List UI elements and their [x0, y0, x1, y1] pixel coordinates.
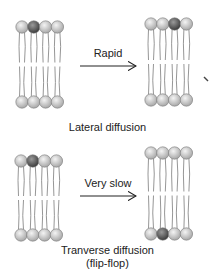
- lipid-tail: [36, 32, 37, 62]
- lipid-tail: [47, 67, 48, 97]
- lipid-tail: [25, 32, 26, 62]
- lipid-tail: [165, 64, 166, 95]
- lipid-tail: [153, 64, 154, 95]
- lipid-tail: [172, 64, 173, 95]
- transverse-diffusion-caption: Tranverse diffusion: [0, 244, 215, 257]
- lipid-tail: [177, 158, 178, 191]
- lipid-tail: [42, 166, 43, 196]
- lipid-head: [180, 147, 192, 159]
- lipid-head: [157, 18, 169, 30]
- lipid-tail: [58, 200, 59, 230]
- lipid-tail: [36, 67, 37, 97]
- lipid-head: [16, 96, 28, 108]
- lipid-tail: [30, 166, 31, 196]
- lipid-head: [145, 147, 157, 159]
- lipid-tail: [165, 29, 166, 60]
- marked-lipid-head: [27, 155, 39, 167]
- membrane-diffusion-diagram: [0, 0, 215, 273]
- lipid-tail: [165, 196, 166, 229]
- marked-lipid-head: [28, 21, 40, 33]
- lipid-tail: [60, 32, 61, 62]
- lipid-tail: [148, 158, 149, 191]
- lipid-tail: [43, 67, 44, 97]
- lipid-head: [50, 155, 62, 167]
- lipid-tail: [172, 196, 173, 229]
- lipid-head: [168, 94, 180, 106]
- lipid-tail: [165, 158, 166, 191]
- lipid-tail: [149, 64, 150, 95]
- lipid-tail: [35, 166, 36, 196]
- lipid-tail: [184, 196, 185, 229]
- lipid-head: [51, 21, 63, 33]
- lipid-head: [39, 96, 51, 108]
- lipid-tail: [149, 196, 150, 229]
- lipid-tail: [54, 32, 55, 62]
- lipid-head: [50, 229, 62, 241]
- lipid-tail: [183, 29, 184, 60]
- very-slow-label: Very slow: [78, 177, 138, 189]
- lipid-tail: [31, 32, 32, 62]
- lateral-diffusion-caption: Lateral diffusion: [0, 121, 215, 134]
- lipid-head: [180, 94, 192, 106]
- lipid-tail: [160, 29, 161, 60]
- lipid-head: [51, 96, 63, 108]
- transverse-bilayer-after: [145, 147, 193, 240]
- lipid-tail: [189, 158, 190, 191]
- lipid-tail: [30, 200, 31, 230]
- lipid-head: [180, 228, 192, 240]
- lipid-head: [15, 155, 27, 167]
- lipid-tail: [172, 29, 173, 60]
- lipid-head: [15, 229, 27, 241]
- lipid-head: [157, 147, 169, 159]
- lipid-tail: [31, 67, 32, 97]
- lipid-tail: [148, 29, 149, 60]
- lipid-head: [27, 229, 39, 241]
- lipid-tail: [48, 32, 49, 62]
- lateral-bilayer-after: [145, 18, 193, 106]
- lipid-tail: [19, 32, 20, 62]
- flip-flop-caption: (flip-flop): [0, 257, 215, 270]
- lipid-tail: [46, 200, 47, 230]
- lipid-tail: [160, 64, 161, 95]
- lipid-tail: [176, 64, 177, 95]
- marked-lipid-head: [168, 18, 180, 30]
- lipid-tail: [55, 67, 56, 97]
- lipid-tail: [35, 200, 36, 230]
- lipid-tail: [42, 200, 43, 230]
- stray-mark: [204, 77, 208, 81]
- lipid-head: [168, 147, 180, 159]
- lipid-tail: [43, 32, 44, 62]
- lipid-head: [16, 21, 28, 33]
- lipid-tail: [59, 67, 60, 97]
- lipid-tail: [154, 158, 155, 191]
- rapid-label: Rapid: [78, 47, 138, 59]
- lipid-tail: [19, 200, 20, 230]
- lipid-tail: [172, 158, 173, 191]
- lipid-tail: [188, 196, 189, 229]
- transverse-bilayer-before: [15, 155, 63, 241]
- lipid-tail: [54, 200, 55, 230]
- lipid-tail: [188, 64, 189, 95]
- lateral-bilayer-before: [16, 21, 64, 108]
- lipid-head: [28, 96, 40, 108]
- lipid-head: [38, 155, 50, 167]
- lipid-tail: [24, 67, 25, 97]
- lipid-tail: [18, 166, 19, 196]
- lipid-tail: [23, 200, 24, 230]
- marked-lipid-head: [157, 228, 169, 240]
- lipid-tail: [24, 166, 25, 196]
- lipid-head: [157, 94, 169, 106]
- lipid-tail: [189, 29, 190, 60]
- lipid-tail: [153, 196, 154, 229]
- lipid-tail: [177, 29, 178, 60]
- lipid-tail: [184, 64, 185, 95]
- lipid-head: [145, 228, 157, 240]
- lipid-head: [38, 229, 50, 241]
- lipid-head: [180, 18, 192, 30]
- lipid-tail: [20, 67, 21, 97]
- lipid-tail: [160, 196, 161, 229]
- lipid-tail: [183, 158, 184, 191]
- lipid-head: [168, 228, 180, 240]
- lipid-head: [145, 18, 157, 30]
- lipid-tail: [53, 166, 54, 196]
